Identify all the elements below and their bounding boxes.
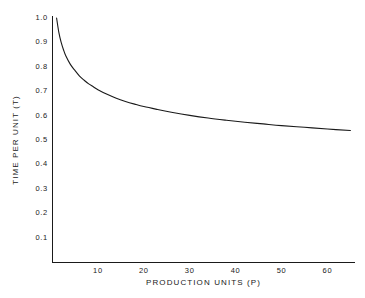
y-axis-title: TIME PER UNIT (T) [11, 95, 20, 185]
learning-curve-line [57, 18, 351, 130]
chart-figure: 0.10.20.30.40.50.60.70.80.91.0 102030405… [0, 0, 365, 298]
x-axis-title: PRODUCTION UNITS (P) [52, 278, 355, 287]
data-curve-layer [0, 0, 365, 298]
y-axis-title-wrapper: TIME PER UNIT (T) [8, 18, 22, 262]
